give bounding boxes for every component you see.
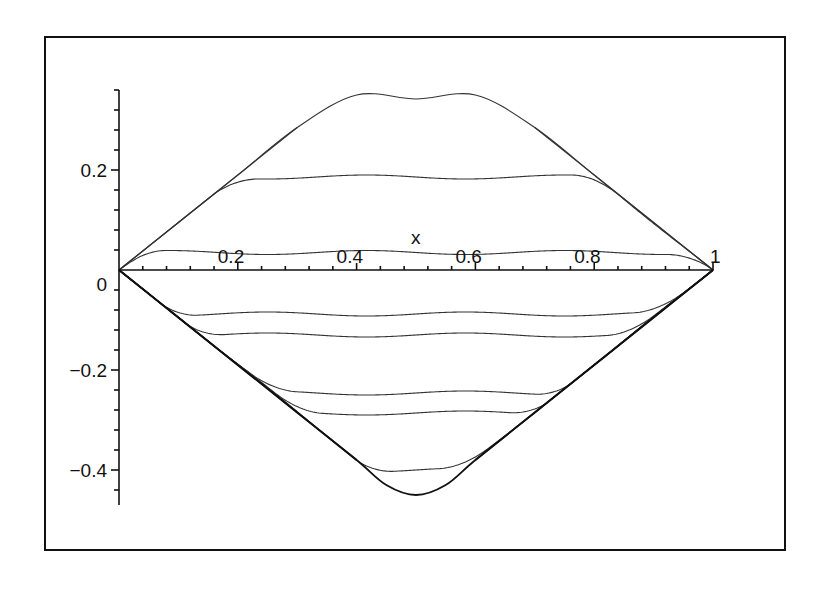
x-axis-label: x (411, 227, 421, 248)
tick-labels-group: 0.20.40.60.810.20−0.2−0.4 (69, 160, 720, 481)
x-tick-label: 0.2 (218, 246, 244, 267)
x-tick-label: 0.8 (574, 246, 600, 267)
series-curve-3 (119, 251, 713, 271)
axes-group (111, 90, 713, 505)
series-curve-9 (119, 270, 713, 495)
lower-envelope-right (475, 270, 713, 460)
lower-envelope-left (119, 270, 357, 460)
series-curve-2 (119, 175, 713, 270)
series-curve-4 (119, 270, 713, 316)
x-tick-label: 0.6 (455, 246, 481, 267)
y-tick-label: −0.2 (69, 360, 107, 381)
plot-area: 0.20.40.60.810.20−0.2−0.4 x (0, 0, 832, 590)
series-curve-5 (119, 270, 713, 337)
series-curve-8 (119, 270, 713, 471)
y-tick-label: −0.4 (69, 460, 107, 481)
x-tick-label: 1 (710, 246, 721, 267)
upper-envelope-left (119, 128, 297, 271)
upper-envelope-right (535, 128, 713, 271)
curves-group (119, 94, 713, 495)
x-tick-label: 0.4 (337, 246, 364, 267)
y-tick-label: 0.2 (81, 160, 107, 181)
y-tick-label: 0 (96, 274, 107, 295)
